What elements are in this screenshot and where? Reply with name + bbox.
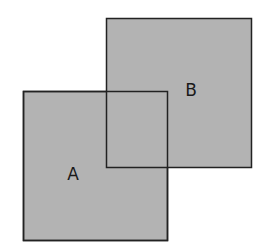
label-b: B	[185, 80, 197, 100]
label-a: A	[67, 164, 79, 184]
square-b	[107, 19, 252, 168]
venn-squares-diagram: B A	[0, 0, 266, 248]
